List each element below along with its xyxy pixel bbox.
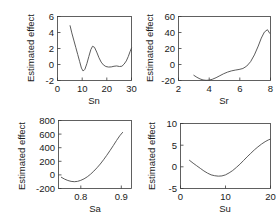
panel-bottom-left: 800 600 400 200 0 -200 0.8 0.9 Sa Estima…: [0, 112, 139, 224]
svg-text:-200: -200: [36, 183, 55, 194]
curve-4: [190, 139, 271, 176]
svg-text:0: 0: [178, 191, 183, 202]
y-ticklabels-4: 10 5 0 -5: [166, 118, 177, 194]
x-ticklabels-4: 0 10 20: [178, 191, 276, 202]
curve-1: [70, 26, 131, 71]
svg-text:800: 800: [39, 115, 55, 126]
svg-text:30: 30: [126, 83, 137, 94]
svg-text:400: 400: [39, 142, 55, 153]
axes-frame-4: [181, 124, 271, 189]
svg-text:6: 6: [49, 11, 54, 22]
x-axis-label-2: Sr: [219, 95, 229, 106]
svg-text:20: 20: [102, 83, 113, 94]
svg-text:60: 60: [164, 11, 175, 22]
y-axis-label-4: Estimated effect: [146, 122, 157, 190]
axes-frame-1: [58, 17, 132, 81]
panel-bottom-right: 10 5 0 -5 0 10 20 Su Estimated effect: [139, 112, 279, 224]
svg-text:10: 10: [166, 118, 177, 129]
panel-top-right: 60 40 20 0 -20 2 4 6 8 Sr Estimated effe…: [139, 0, 279, 112]
y-ticks-1: [58, 17, 61, 81]
y-ticklabels-3: 800 600 400 200 0 -200: [36, 115, 55, 194]
x-ticklabels-1: 0 10 20 30: [55, 83, 137, 94]
svg-text:2: 2: [176, 83, 181, 94]
x-ticks-3: [81, 186, 122, 189]
svg-text:4: 4: [207, 83, 212, 94]
svg-text:6: 6: [237, 83, 242, 94]
x-axis-label-1: Sn: [88, 95, 100, 106]
panel-bottom-right-plot: 10 5 0 -5 0 10 20 Su Estimated effect: [139, 112, 279, 224]
svg-text:-2: -2: [46, 75, 54, 86]
svg-text:8: 8: [268, 83, 273, 94]
svg-text:600: 600: [39, 129, 55, 140]
svg-text:20: 20: [265, 191, 276, 202]
y-axis-label-2: Estimated effect: [144, 14, 155, 82]
svg-text:0: 0: [170, 59, 175, 70]
panel-top-left-plot: 6 4 2 0 -2 0 10 20 30 Sn Estimated effec…: [0, 0, 139, 112]
curve-3: [61, 132, 122, 181]
y-ticklabels-2: 60 40 20 0 -20: [161, 11, 175, 86]
svg-text:0: 0: [172, 161, 177, 172]
svg-text:0: 0: [50, 169, 55, 180]
y-ticks-4: [181, 124, 184, 189]
svg-text:-20: -20: [161, 75, 175, 86]
multi-panel-figure: 6 4 2 0 -2 0 10 20 30 Sn Estimated effec…: [0, 0, 279, 224]
panel-top-left: 6 4 2 0 -2 0 10 20 30 Sn Estimated effec…: [0, 0, 139, 112]
x-ticks-4: [181, 186, 271, 189]
svg-text:10: 10: [220, 191, 231, 202]
svg-text:200: 200: [39, 156, 55, 167]
y-axis-label-3: Estimated effect: [16, 122, 27, 190]
svg-text:40: 40: [164, 27, 175, 38]
y-ticks-2: [179, 17, 182, 81]
svg-text:0: 0: [49, 59, 54, 70]
svg-text:5: 5: [172, 140, 177, 151]
x-axis-label-3: Sa: [89, 203, 101, 214]
x-ticklabels-3: 0.8 0.9: [74, 191, 128, 202]
svg-text:-5: -5: [169, 183, 177, 194]
svg-text:0: 0: [55, 83, 60, 94]
x-ticklabels-2: 2 4 6 8: [176, 83, 273, 94]
svg-text:0.9: 0.9: [115, 191, 128, 202]
y-ticklabels-1: 6 4 2 0 -2: [46, 11, 54, 86]
x-axis-label-4: Su: [219, 203, 231, 214]
x-ticks-1: [58, 78, 132, 81]
y-axis-label-1: Estimated effect: [25, 14, 36, 82]
svg-text:4: 4: [49, 27, 54, 38]
svg-text:10: 10: [77, 83, 88, 94]
curve-2: [194, 30, 270, 81]
svg-text:0.8: 0.8: [74, 191, 87, 202]
panel-top-right-plot: 60 40 20 0 -20 2 4 6 8 Sr Estimated effe…: [139, 0, 279, 112]
y-ticks-3: [59, 121, 62, 189]
panel-bottom-left-plot: 800 600 400 200 0 -200 0.8 0.9 Sa Estima…: [0, 112, 139, 224]
svg-text:20: 20: [164, 43, 175, 54]
x-ticks-2: [179, 78, 271, 81]
axes-frame-3: [59, 121, 132, 189]
svg-text:2: 2: [49, 43, 54, 54]
